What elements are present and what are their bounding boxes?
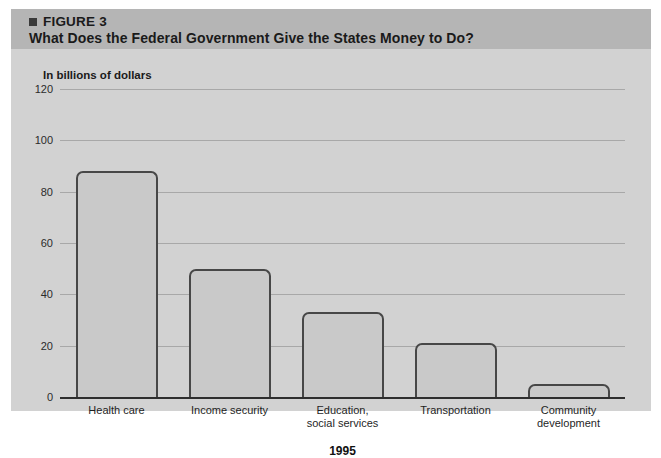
bar [415,343,497,397]
x-axis-category-label-line: development [512,417,625,430]
x-axis-category-label: Health care [60,404,173,417]
bar-series [60,89,625,397]
bar [528,384,610,397]
x-axis-category-label-line: Income security [173,404,286,417]
figure-label-row: FIGURE 3 [29,14,107,29]
figure-title: What Does the Federal Government Give th… [29,30,474,46]
axis-baseline: 0 [60,397,625,399]
x-axis-category-label-line: social services [286,417,399,430]
figure-panel: FIGURE 3 What Does the Federal Governmen… [11,9,651,411]
figure-header-band: FIGURE 3 What Does the Federal Governmen… [11,9,651,49]
figure-number: FIGURE 3 [43,14,107,29]
y-axis-tick-label: 40 [41,288,53,300]
y-axis-tick-label: 0 [47,391,53,403]
x-axis-category-label: Income security [173,404,286,417]
bar [302,312,384,397]
chart-body: In billions of dollars 020406080100120 H… [11,49,651,411]
y-axis-tick-label: 100 [35,134,53,146]
y-axis-tick-label: 80 [41,186,53,198]
square-bullet-icon [29,18,37,26]
y-axis-tick-label: 120 [35,83,53,95]
x-axis-category-label: Transportation [399,404,512,417]
x-axis-category-label: Education,social services [286,404,399,430]
x-axis-title: 1995 [60,444,625,458]
x-axis-category-label-line: Education, [286,404,399,417]
bar [76,171,158,397]
y-axis-tick-label: 20 [41,340,53,352]
x-axis-category-label-line: Transportation [399,404,512,417]
x-axis-category-label: Communitydevelopment [512,404,625,430]
x-axis-category-label-line: Community [512,404,625,417]
x-axis-category-label-line: Health care [60,404,173,417]
y-axis-tick-label: 60 [41,237,53,249]
chart-subtitle: In billions of dollars [43,69,152,81]
plot-area: 020406080100120 Health careIncome securi… [60,89,625,397]
bar [189,269,271,397]
